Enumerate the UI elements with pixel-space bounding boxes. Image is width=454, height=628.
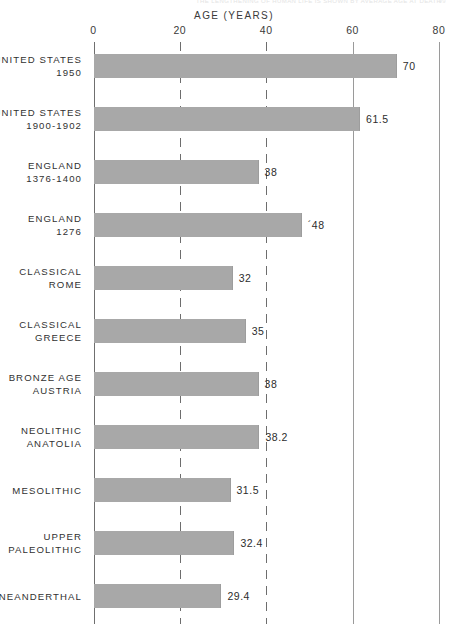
- chart-row: BRONZE AGE AUSTRIA38: [0, 360, 454, 413]
- chart-row: UNITED STATES 1900-190261.5: [0, 95, 454, 148]
- category-label: ENGLAND 1276: [0, 212, 82, 238]
- category-label: CLASSICAL ROME: [0, 265, 82, 291]
- bar: [94, 213, 302, 237]
- category-label: CLASSICAL GREECE: [0, 318, 82, 344]
- bar: [94, 372, 259, 396]
- chart-row: CLASSICAL ROME32: [0, 254, 454, 307]
- bar: [94, 584, 222, 608]
- category-label: ENGLAND 1376-1400: [0, 159, 82, 185]
- bar-value-label: 61.5: [366, 113, 388, 125]
- bar-value-label: 35: [252, 325, 265, 337]
- bar: [94, 160, 259, 184]
- bar: [94, 319, 246, 343]
- bar-value-label: ´48: [308, 219, 325, 231]
- bar-value-label: 70: [403, 60, 416, 72]
- chart-row: CLASSICAL GREECE35: [0, 307, 454, 360]
- bar: [94, 266, 233, 290]
- chart-row: ENGLAND 1376-140038: [0, 148, 454, 201]
- bar-value-label: 38.2: [265, 431, 287, 443]
- chart-row: NEANDERTHAL29.4: [0, 572, 454, 625]
- bar-value-label: 32.4: [240, 537, 262, 549]
- chart-row: ENGLAND 1276´48: [0, 201, 454, 254]
- category-label: NEOLITHIC ANATOLIA: [0, 424, 82, 450]
- chart-row: UNITED STATES 195070: [0, 42, 454, 95]
- category-label: NEANDERTHAL: [0, 590, 82, 603]
- category-label: MESOLITHIC: [0, 484, 82, 497]
- chart-row: UPPER PALEOLITHIC32.4: [0, 519, 454, 572]
- bar-value-label: 38: [265, 166, 278, 178]
- bar-value-label: 29.4: [227, 590, 249, 602]
- category-label: BRONZE AGE AUSTRIA: [0, 371, 82, 397]
- chart-row: MESOLITHIC31.5: [0, 466, 454, 519]
- bar: [94, 425, 260, 449]
- bar: [94, 107, 361, 131]
- bar: [94, 54, 397, 78]
- bar: [94, 531, 235, 555]
- bar-value-label: 38: [265, 378, 278, 390]
- bar-value-label: 31.5: [237, 484, 259, 496]
- category-label: UPPER PALEOLITHIC: [0, 530, 82, 556]
- category-label: UNITED STATES 1900-1902: [0, 106, 82, 132]
- chart-row: NEOLITHIC ANATOLIA38.2: [0, 413, 454, 466]
- bar-value-label: 32: [239, 272, 252, 284]
- category-label: UNITED STATES 1950: [0, 53, 82, 79]
- plot-area: UNITED STATES 195070UNITED STATES 1900-1…: [0, 0, 454, 628]
- chart-figure: 99 THE LENGTHENING OF HUMAN LIFE IS SHOW…: [0, 0, 454, 628]
- bar: [94, 478, 231, 502]
